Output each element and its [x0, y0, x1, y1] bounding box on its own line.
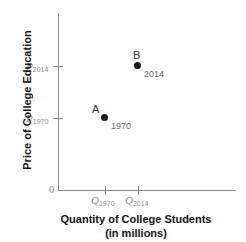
x-tick-label-q1970: Q1970	[91, 195, 115, 206]
college-education-scatter-chart: 0 P2014 P1970 Q1970 Q2014 A 1970 B 2014 …	[0, 0, 246, 242]
x-tick-label-q1970-base: Q	[91, 194, 99, 206]
point-label-a: A	[92, 104, 99, 115]
x-axis-title-line1: Quantity of College Students	[61, 213, 212, 225]
x-axis-line	[58, 190, 236, 191]
y-axis-tick-p1970	[53, 118, 63, 119]
x-axis-title: Quantity of College Students(in millions…	[36, 213, 236, 241]
x-tick-label-q2014-base: Q	[125, 194, 133, 206]
y-tick-label-p2014-sub: 2014	[33, 66, 49, 73]
x-tick-label-q2014-sub: 2014	[133, 200, 149, 207]
origin-label: 0	[49, 184, 55, 195]
data-point-b	[134, 62, 141, 69]
x-tick-label-q2014: Q2014	[125, 195, 149, 206]
point-label-b: B	[133, 50, 140, 61]
y-axis-line	[58, 13, 59, 191]
x-axis-tick-q1970	[105, 186, 106, 195]
y-axis-title: Price of College Education	[21, 15, 33, 185]
x-axis-tick-q2014	[138, 186, 139, 195]
point-year-2014: 2014	[144, 70, 164, 79]
y-tick-label-p1970-sub: 1970	[33, 118, 49, 125]
x-axis-title-line2: (in millions)	[36, 227, 236, 241]
data-point-a	[101, 114, 108, 121]
point-year-1970: 1970	[111, 122, 131, 131]
y-axis-tick-p2014	[53, 66, 63, 67]
x-tick-label-q1970-sub: 1970	[99, 200, 115, 207]
